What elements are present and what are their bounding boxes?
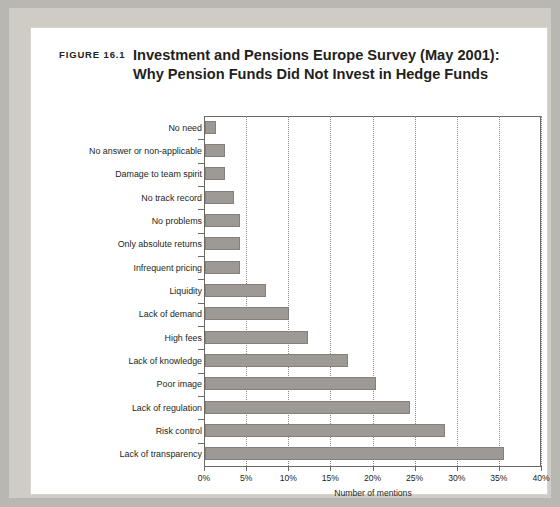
bar-category-label: No track record	[0, 186, 202, 210]
bar-category-label: High fees	[0, 326, 202, 350]
bar	[205, 214, 240, 227]
x-axis-title: Number of mentions	[204, 488, 542, 498]
bar	[205, 447, 504, 460]
bar	[205, 401, 410, 414]
bar	[205, 284, 266, 297]
x-tick-label: 10%	[268, 473, 308, 483]
bar-row: Damage to team spirit	[31, 162, 547, 186]
bar-row: No need	[31, 116, 547, 140]
bar-row: Liquidity	[31, 279, 547, 303]
bar-row: No problems	[31, 209, 547, 233]
bar-category-label: Poor image	[0, 372, 202, 396]
bar	[205, 354, 348, 367]
x-tick-label: 20%	[353, 473, 393, 483]
x-tick	[204, 466, 205, 471]
bar-category-label: Liquidity	[0, 279, 202, 303]
x-tick-label: 25%	[395, 473, 435, 483]
x-tick	[288, 466, 289, 471]
figure-title-line-2: Why Pension Funds Did Not Invest in Hedg…	[133, 65, 517, 84]
bar	[205, 237, 240, 250]
page-inner-frame: FIGURE 16.1Investment and Pensions Europ…	[9, 8, 551, 498]
x-tick-label: 0%	[184, 473, 224, 483]
x-tick	[415, 466, 416, 471]
bar-row: Only absolute returns	[31, 232, 547, 256]
bar-category-label: Damage to team spirit	[0, 162, 202, 186]
bar-row: Lack of knowledge	[31, 349, 547, 373]
figure-number-label: FIGURE 16.1	[59, 46, 133, 60]
bar-category-label: Infrequent pricing	[0, 256, 202, 280]
x-tick	[499, 466, 500, 471]
bar	[205, 261, 240, 274]
bar	[205, 121, 216, 134]
bar	[205, 331, 308, 344]
bar-category-label: Risk control	[0, 419, 202, 443]
bar	[205, 307, 289, 320]
bar-category-label: No answer or non-applicable	[0, 139, 202, 163]
bar-row: Lack of regulation	[31, 396, 547, 420]
x-tick-label: 15%	[310, 473, 350, 483]
bar-row: Risk control	[31, 419, 547, 443]
x-tick-label: 30%	[437, 473, 477, 483]
x-tick	[541, 466, 542, 471]
x-tick-label: 35%	[479, 473, 519, 483]
figure-title-block: FIGURE 16.1Investment and Pensions Europ…	[59, 46, 529, 85]
bar	[205, 424, 445, 437]
bar-row: No answer or non-applicable	[31, 139, 547, 163]
bar-category-label: No need	[0, 116, 202, 140]
bar	[205, 167, 225, 180]
figure-title-line-1: Investment and Pensions Europe Survey (M…	[133, 47, 500, 63]
bar-category-label: Lack of knowledge	[0, 349, 202, 373]
chart-plot: 0%5%10%15%20%25%30%35%40% No needNo answ…	[31, 96, 547, 494]
bar-row: Infrequent pricing	[31, 256, 547, 280]
bar-row: No track record	[31, 186, 547, 210]
page-background: FIGURE 16.1Investment and Pensions Europ…	[0, 0, 560, 507]
figure-card: FIGURE 16.1Investment and Pensions Europ…	[31, 28, 547, 494]
bar-category-label: Lack of demand	[0, 302, 202, 326]
bar-row: High fees	[31, 326, 547, 350]
bar-category-label: Only absolute returns	[0, 232, 202, 256]
x-tick-label: 40%	[521, 473, 560, 483]
x-tick	[457, 466, 458, 471]
x-tick	[246, 466, 247, 471]
bar	[205, 377, 376, 390]
bar-row: Lack of transparency	[31, 442, 547, 466]
bar	[205, 191, 234, 204]
bar-category-label: Lack of transparency	[0, 442, 202, 466]
x-tick-label: 5%	[226, 473, 266, 483]
bar-category-label: Lack of regulation	[0, 396, 202, 420]
bar-row: Poor image	[31, 372, 547, 396]
x-tick	[373, 466, 374, 471]
x-tick	[330, 466, 331, 471]
bar-row: Lack of demand	[31, 302, 547, 326]
bar	[205, 144, 225, 157]
bar-category-label: No problems	[0, 209, 202, 233]
page-title: Investment and Pensions Europe Survey (M…	[133, 46, 517, 85]
